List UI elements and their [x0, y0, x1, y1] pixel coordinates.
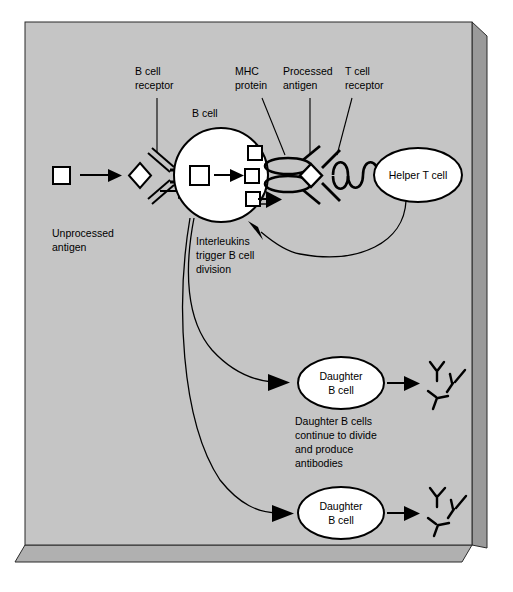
label-processed-antigen-line2: antigen — [283, 79, 318, 91]
label-unprocessed-antigen-line2: antigen — [52, 241, 87, 253]
daughter-b-cell-top-body — [298, 357, 384, 409]
label-t-cell-receptor-line2: receptor — [345, 79, 384, 91]
panel-bottom-bevel — [15, 545, 472, 562]
label-mhc-protein-line1: MHC — [235, 65, 259, 77]
daughter-b-cell-bottom-body — [298, 487, 384, 539]
panel-right-bevel — [472, 22, 487, 548]
figure-canvas: B cell receptor MHC protein Processed an… — [0, 0, 513, 592]
unprocessed-antigen-square-icon — [53, 167, 70, 184]
label-processed-antigen-line1: Processed — [283, 65, 333, 77]
label-helper-t-cell: Helper T cell — [389, 169, 448, 181]
b-cell-internal-antigen-square-icon — [190, 166, 209, 185]
label-interleukins-line3: division — [196, 263, 231, 275]
label-daughter-b-cell-bottom-line1: Daughter — [319, 500, 363, 512]
label-daughter-b-cell-bottom-line2: B cell — [328, 514, 354, 526]
panel-face-sheen — [26, 23, 471, 544]
label-b-cell-receptor-line1: B cell — [135, 65, 161, 77]
label-b-cell-receptor-line2: receptor — [135, 79, 174, 91]
label-interleukins-line2: trigger B cell — [196, 249, 254, 261]
label-daughter-note-line4: antibodies — [295, 457, 343, 469]
label-daughter-b-cell-top-line1: Daughter — [319, 370, 363, 382]
label-b-cell: B cell — [192, 107, 218, 119]
label-daughter-b-cell-top-line2: B cell — [328, 384, 354, 396]
label-unprocessed-antigen-line1: Unprocessed — [52, 227, 114, 239]
processed-fragment-square-icon-3 — [246, 192, 260, 206]
label-mhc-protein-line2: protein — [235, 79, 267, 91]
label-daughter-note-line3: and produce — [295, 443, 354, 455]
label-interleukins-line1: Interleukins — [196, 235, 250, 247]
processed-fragment-square-icon-2 — [245, 169, 259, 183]
label-daughter-note-line2: continue to divide — [295, 429, 377, 441]
processed-fragment-square-icon-1 — [248, 146, 262, 160]
label-t-cell-receptor-line1: T cell — [345, 65, 370, 77]
label-daughter-note-line1: Daughter B cells — [295, 415, 372, 427]
